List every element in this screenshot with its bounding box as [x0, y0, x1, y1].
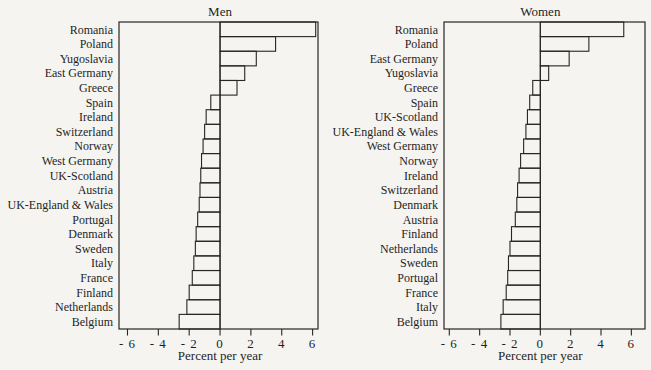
tick-label: 6: [628, 336, 636, 351]
bar: [211, 95, 220, 110]
x-axis-title: Percent per year: [178, 348, 263, 363]
tick-label: - 6: [119, 336, 136, 351]
bar: [508, 256, 540, 271]
bar: [508, 271, 541, 286]
category-label: Ireland: [404, 169, 438, 183]
category-label: Ireland: [79, 110, 113, 124]
bar: [199, 197, 220, 212]
bar: [201, 168, 220, 183]
category-label: Netherlands: [55, 300, 113, 314]
bar: [540, 37, 589, 52]
category-label: Italy: [416, 300, 438, 314]
bar: [521, 154, 541, 169]
bar: [524, 139, 541, 154]
category-label: Yugoslavia: [385, 66, 439, 80]
category-label: Netherlands: [380, 242, 438, 256]
bar: [220, 51, 256, 66]
bar: [200, 183, 220, 198]
bar: [196, 227, 220, 242]
chart-women: WomenRomaniaPolandEast GermanyYugoslavia…: [333, 4, 645, 363]
category-label: East Germany: [45, 66, 113, 80]
category-label: Sweden: [400, 256, 438, 270]
bar: [203, 139, 220, 154]
category-label: Yugoslavia: [60, 52, 114, 66]
bar: [194, 256, 220, 271]
category-label: Finland: [76, 286, 113, 300]
category-label: Spain: [86, 96, 113, 110]
bar: [530, 95, 541, 110]
category-label: Portugal: [72, 213, 113, 227]
category-label: UK-England & Wales: [8, 198, 114, 212]
bar: [512, 227, 541, 242]
bar: [533, 80, 541, 95]
category-label: France: [80, 271, 113, 285]
scanned-figure-mortality-trends: MenRomaniaPolandYugoslaviaEast GermanyGr…: [0, 0, 651, 370]
bar: [206, 110, 220, 125]
category-label: Greece: [79, 81, 113, 95]
x-axis-title: Percent per year: [498, 348, 583, 363]
bar: [527, 110, 540, 125]
category-label: Norway: [74, 139, 113, 153]
category-label: Poland: [80, 37, 113, 51]
bar: [195, 241, 220, 256]
category-label: East Germany: [370, 52, 438, 66]
tick-label: 6: [309, 336, 317, 351]
bar-charts-svg: MenRomaniaPolandYugoslaviaEast GermanyGr…: [0, 0, 651, 370]
category-label: West Germany: [42, 154, 113, 168]
bar: [517, 197, 541, 212]
bar: [510, 241, 540, 256]
category-label: Austria: [78, 183, 114, 197]
bar: [187, 300, 220, 315]
category-label: West Germany: [367, 139, 438, 153]
category-label: Belgium: [397, 315, 439, 329]
bar: [198, 212, 220, 227]
bar: [202, 154, 221, 169]
bar: [179, 314, 220, 329]
tick-label: - 4: [150, 336, 167, 351]
bar: [518, 183, 541, 198]
category-label: Belgium: [72, 315, 114, 329]
chart-men: MenRomaniaPolandYugoslaviaEast GermanyGr…: [8, 4, 318, 363]
category-label: Switzerland: [381, 183, 438, 197]
bar: [515, 212, 540, 227]
category-label: Denmark: [68, 227, 113, 241]
category-label: UK-Scotland: [375, 110, 438, 124]
category-label: Poland: [405, 37, 438, 51]
bar: [220, 66, 245, 81]
tick-label: 4: [278, 336, 286, 351]
chart-title: Men: [208, 4, 232, 19]
category-label: Norway: [399, 154, 438, 168]
bar: [205, 124, 220, 139]
chart-title: Women: [520, 4, 561, 19]
tick-label: 4: [597, 336, 605, 351]
bar: [501, 314, 540, 329]
category-label: Denmark: [393, 198, 438, 212]
bar: [220, 37, 276, 52]
category-label: Spain: [411, 96, 438, 110]
tick-label: - 4: [471, 336, 488, 351]
category-label: Romania: [395, 23, 439, 37]
category-label: Finland: [401, 227, 438, 241]
bar: [540, 22, 623, 37]
bar: [189, 285, 220, 300]
bar: [506, 285, 540, 300]
bar: [526, 124, 540, 139]
bar: [192, 271, 220, 286]
plot-box: [444, 22, 645, 329]
bar: [503, 300, 540, 315]
tick-label: - 6: [441, 336, 458, 351]
bar: [540, 66, 548, 81]
category-label: Greece: [404, 81, 438, 95]
bar: [519, 168, 540, 183]
bar: [220, 22, 316, 37]
category-label: UK-Scotland: [50, 169, 113, 183]
category-label: Sweden: [75, 242, 113, 256]
category-label: Portugal: [397, 271, 438, 285]
category-label: Italy: [91, 256, 113, 270]
category-label: Switzerland: [56, 125, 113, 139]
category-label: UK-England & Wales: [333, 125, 439, 139]
plot-box: [119, 22, 318, 329]
category-label: France: [405, 286, 438, 300]
bar: [540, 51, 569, 66]
bar: [220, 80, 237, 95]
